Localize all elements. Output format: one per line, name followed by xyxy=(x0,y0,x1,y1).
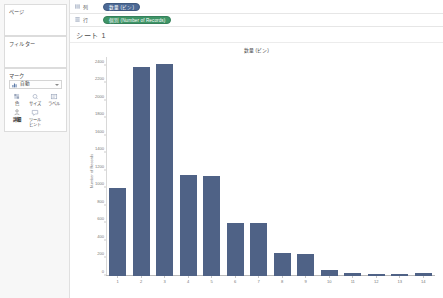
label-icon xyxy=(50,93,58,101)
x-axis-tick-mark xyxy=(423,276,424,278)
y-axis-tick-label: 1200 xyxy=(95,165,104,169)
bar-slot: 10 xyxy=(318,57,342,276)
bar[interactable] xyxy=(274,253,291,276)
marks-buttons: 色 サイズ ラベル xyxy=(8,93,63,131)
chart-area: 数量 (ビン) Number of Records 24002200200018… xyxy=(70,43,443,298)
y-axis-tick-label: 200 xyxy=(97,252,104,256)
x-axis-tick-mark xyxy=(305,276,306,278)
bar-series: 1234567891011121314 xyxy=(106,57,435,276)
x-axis-tick-mark xyxy=(376,276,377,278)
columns-shelf[interactable]: 列 数量 (ビン) xyxy=(70,0,443,14)
pages-card[interactable]: ページ xyxy=(4,4,67,36)
x-axis-tick-label: 7 xyxy=(258,280,260,284)
marks-detail-label: 詳細 xyxy=(13,118,21,122)
x-axis-tick-mark xyxy=(329,276,330,278)
marks-card[interactable]: マーク 自動 色 xyxy=(4,68,67,132)
bar-slot: 9 xyxy=(294,57,318,276)
rows-shelf-label: 行 xyxy=(83,16,103,23)
tableau-worksheet-window: ページ フィルター マーク 自動 xyxy=(0,0,443,298)
x-axis-tick-mark xyxy=(235,276,236,278)
filters-card[interactable]: フィルター xyxy=(4,36,67,68)
x-axis-tick-label: 1 xyxy=(117,280,119,284)
marks-tooltip-button[interactable]: ツールヒント xyxy=(26,109,44,128)
x-axis-tick-label: 11 xyxy=(351,280,355,284)
y-axis-tick-label: 2200 xyxy=(95,77,104,81)
chevron-down-icon xyxy=(55,84,59,86)
bar-slot: 12 xyxy=(365,57,389,276)
color-icon xyxy=(13,93,21,101)
y-axis-tick-label: 600 xyxy=(97,217,104,221)
y-axis-tick-label: 0 xyxy=(102,270,104,274)
x-axis-tick-mark xyxy=(188,276,189,278)
size-icon xyxy=(31,93,39,101)
marks-detail-button[interactable]: 詳細 xyxy=(8,109,26,128)
y-axis-tick-label: 2000 xyxy=(95,95,104,99)
bar[interactable] xyxy=(203,176,220,276)
bar-slot: 1 xyxy=(106,57,130,276)
mark-type-label: 自動 xyxy=(20,82,53,87)
columns-icon xyxy=(75,4,80,9)
bar-slot: 8 xyxy=(271,57,295,276)
left-panel: ページ フィルター マーク 自動 xyxy=(0,0,69,298)
x-axis-tick-label: 13 xyxy=(397,280,402,284)
marks-label-label: ラベル xyxy=(48,102,60,106)
x-axis-tick-label: 4 xyxy=(187,280,189,284)
marks-color-button[interactable]: 色 xyxy=(8,93,26,106)
x-axis-tick-label: 6 xyxy=(234,280,236,284)
y-axis-tick-label: 800 xyxy=(97,200,104,204)
tooltip-icon xyxy=(31,109,39,117)
bar-slot: 2 xyxy=(130,57,154,276)
y-axis-tick-label: 1600 xyxy=(95,130,104,134)
bar-slot: 6 xyxy=(224,57,248,276)
y-axis-tick-label: 1400 xyxy=(95,147,104,151)
marks-card-title: マーク xyxy=(5,69,66,79)
x-axis-tick-label: 9 xyxy=(305,280,307,284)
bar-slot: 7 xyxy=(247,57,271,276)
bar-slot: 3 xyxy=(153,57,177,276)
bar-slot: 14 xyxy=(412,57,436,276)
x-axis-tick-mark xyxy=(211,276,212,278)
worksheet-pane: 列 数量 (ビン) 行 個別 (Number of Records) シート 1… xyxy=(69,0,443,298)
marks-color-label: 色 xyxy=(15,102,19,106)
y-axis-title: Number of Records xyxy=(89,153,94,188)
columns-shelf-label: 列 xyxy=(83,3,103,10)
bar[interactable] xyxy=(109,188,126,276)
x-axis-tick-mark xyxy=(399,276,400,278)
bar[interactable] xyxy=(250,223,267,276)
x-axis-tick-mark xyxy=(258,276,259,278)
sheet-title[interactable]: シート 1 xyxy=(76,30,106,40)
x-axis-tick-label: 3 xyxy=(164,280,166,284)
rows-icon xyxy=(75,17,80,22)
y-axis-tick-label: 1000 xyxy=(95,182,104,186)
x-axis-tick-mark xyxy=(141,276,142,278)
y-axis-tick-label: 1800 xyxy=(95,112,104,116)
x-axis-tick-mark xyxy=(164,276,165,278)
bar[interactable] xyxy=(227,223,244,276)
marks-size-button[interactable]: サイズ xyxy=(26,93,44,106)
marks-tooltip-label: ツールヒント xyxy=(29,118,41,128)
pill-columns-quantity-bin[interactable]: 数量 (ビン) xyxy=(103,3,140,11)
rows-shelf[interactable]: 行 個別 (Number of Records) xyxy=(70,13,443,27)
pages-card-title: ページ xyxy=(5,5,66,15)
filters-card-title: フィルター xyxy=(5,37,66,47)
bar[interactable] xyxy=(297,254,314,276)
mark-type-dropdown[interactable]: 自動 xyxy=(9,80,62,89)
plot-region: 2400220020001800160014001200100080060040… xyxy=(106,57,435,276)
bar-slot: 4 xyxy=(177,57,201,276)
x-axis-tick-label: 8 xyxy=(281,280,283,284)
bar-slot: 11 xyxy=(341,57,365,276)
chart-title: 数量 (ビン) xyxy=(70,46,443,53)
bar[interactable] xyxy=(180,175,197,276)
x-axis-tick-label: 12 xyxy=(374,280,379,284)
pill-rows-number-of-records[interactable]: 個別 (Number of Records) xyxy=(103,16,171,24)
marks-size-label: サイズ xyxy=(29,102,41,106)
x-axis-tick-mark xyxy=(282,276,283,278)
x-axis-tick-label: 14 xyxy=(421,280,426,284)
bar[interactable] xyxy=(133,67,150,276)
bar[interactable] xyxy=(156,64,173,276)
y-axis-tick-label: 400 xyxy=(97,235,104,239)
x-axis-tick-mark xyxy=(117,276,118,278)
marks-label-button[interactable]: ラベル xyxy=(45,93,63,106)
bar-slot: 13 xyxy=(388,57,412,276)
x-axis-tick-label: 5 xyxy=(211,280,213,284)
